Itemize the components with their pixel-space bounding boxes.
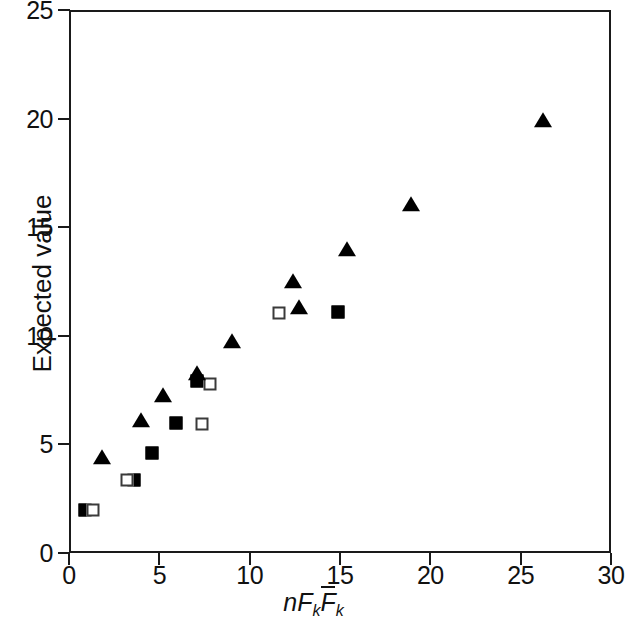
x-tick-label: 0: [62, 561, 75, 590]
data-point-filled-triangle: [290, 300, 308, 315]
y-tick-mark: [58, 226, 70, 228]
data-point-filled-triangle: [402, 197, 420, 212]
data-point-filled-triangle: [534, 112, 552, 127]
x-tick-label: 30: [598, 561, 625, 590]
data-point-filled-triangle: [154, 388, 172, 403]
y-tick-mark: [58, 443, 70, 445]
x-tick-label: 20: [417, 561, 444, 590]
xlabel-f1: F: [297, 588, 312, 616]
y-tick-mark: [58, 9, 70, 11]
plot-area: [69, 10, 611, 553]
x-tick-label: 10: [236, 561, 263, 590]
y-tick-mark: [58, 335, 70, 337]
data-point-filled-triangle: [338, 241, 356, 256]
data-point-filled-triangle: [284, 274, 302, 289]
xlabel-sub1: k: [312, 602, 320, 619]
data-point-open-square: [272, 306, 285, 319]
data-point-filled-triangle: [132, 413, 150, 428]
y-axis-label: Expected value: [27, 4, 58, 564]
y-tick-mark: [58, 118, 70, 120]
data-point-filled-triangle: [93, 450, 111, 465]
data-point-filled-triangle: [188, 365, 206, 380]
xlabel-f2-overbar: F: [320, 588, 335, 617]
y-tick-mark: [58, 552, 70, 554]
x-axis-label: nFkFk: [0, 588, 627, 620]
xlabel-sub2: k: [336, 602, 344, 619]
x-tick-label: 5: [153, 561, 166, 590]
x-tick-label: 25: [507, 561, 534, 590]
data-point-filled-square: [332, 305, 345, 318]
data-point-open-square: [121, 474, 134, 487]
data-point-filled-triangle: [223, 333, 241, 348]
data-point-filled-square: [169, 416, 182, 429]
data-points-layer: [71, 12, 609, 551]
scatter-plot-figure: 051015202530 0510152025 nFkFk Expected v…: [0, 0, 627, 626]
data-point-open-square: [86, 504, 99, 517]
data-point-open-square: [195, 417, 208, 430]
xlabel-n: n: [283, 588, 297, 616]
data-point-filled-square: [146, 446, 159, 459]
